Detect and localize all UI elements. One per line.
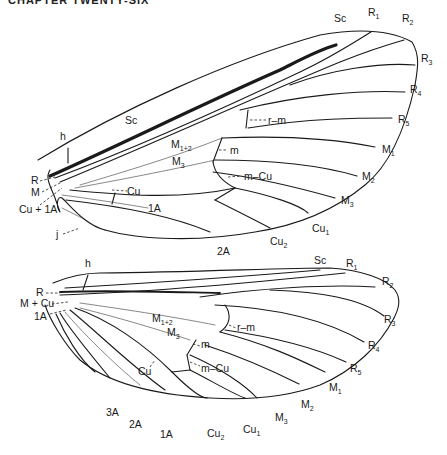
label-r5: R5	[398, 113, 410, 127]
label-r2: R2	[402, 12, 414, 26]
label-h: h	[60, 130, 66, 142]
hw-leader-mcu	[190, 362, 200, 366]
hw-label-cu1: Cu1	[243, 423, 260, 437]
hindwing-vein-1a	[70, 310, 165, 390]
hw-label-m2: M2	[301, 398, 314, 412]
label-r: R	[31, 174, 39, 186]
label-sc-tip: Sc	[334, 12, 346, 24]
hw-label-r1: R1	[346, 257, 358, 271]
hindwing-vein-h	[83, 275, 88, 290]
hw-leader-m	[193, 344, 200, 346]
hindwing-vein-3a-b	[56, 314, 95, 372]
label-m2: M2	[362, 170, 375, 184]
forewing-vein-m1	[222, 137, 375, 147]
hindwing-vein-m12-stem	[80, 303, 215, 325]
label-r1: R1	[368, 6, 380, 20]
hw-label-m3: M3	[167, 326, 180, 340]
forewing-crossvein-rm	[246, 110, 248, 128]
hw-label-1a-base: 1A	[34, 310, 47, 322]
hw-leader-rm	[229, 325, 236, 328]
hw-label-r5: R5	[350, 362, 362, 376]
hindwing-crossvein-rm	[220, 305, 229, 332]
forewing-vein-cu2	[215, 200, 270, 228]
wing-venation-diagram: Sc R1 R2 R3 R4 R5 M1 M2 M3 Cu1 Cu2 2A h …	[0, 0, 447, 455]
forewing-vein-2a	[62, 208, 82, 218]
hindwing	[45, 268, 399, 399]
label-cu: Cu	[127, 185, 141, 197]
hindwing-vein-r5	[225, 330, 346, 362]
forewing-vein-cu-stem	[70, 188, 235, 195]
forewing	[38, 31, 418, 239]
label-m3-margin: M3	[341, 194, 354, 208]
hw-label-h: h	[85, 257, 91, 269]
forewing-outer-margin	[105, 85, 415, 239]
hw-label-cu: Cu	[138, 365, 152, 377]
hw-label-r3: R3	[384, 313, 396, 327]
label-cu2: Cu2	[270, 235, 287, 249]
hw-label-m3-margin: M3	[275, 411, 288, 425]
label-jugum: j	[55, 228, 58, 240]
hw-label-3a: 3A	[106, 406, 119, 418]
hw-label-cu2: Cu2	[207, 427, 224, 441]
leader-cu	[112, 190, 127, 191]
forewing-vein-m12-stem	[80, 138, 222, 185]
label-cu1: Cu1	[312, 222, 329, 236]
label-cu-1a: Cu + 1A	[19, 203, 57, 215]
label-m3: M3	[172, 155, 185, 169]
hindwing-crossvein-m	[187, 340, 196, 355]
hindwing-labels: h Sc R1 R2 R3 R4 R5 M1 M2 M3 Cu1 Cu2 1A …	[20, 254, 396, 441]
forewing-vein-m2	[215, 160, 357, 176]
label-rm: r–m	[268, 114, 286, 126]
hw-label-r2: R2	[382, 275, 394, 289]
hw-label-m: m	[201, 338, 210, 350]
forewing-vein-m3	[213, 172, 335, 198]
forewing-vein-sc	[50, 45, 336, 176]
forewing-labels: Sc R1 R2 R3 R4 R5 M1 M2 M3 Cu1 Cu2 2A h …	[19, 6, 433, 257]
label-m: m	[230, 144, 239, 156]
leader-m-base	[42, 183, 60, 192]
forewing-costa	[38, 31, 418, 160]
forewing-vein-m3-stem	[75, 160, 215, 188]
label-m12: M1+2	[171, 138, 192, 152]
hw-label-rm: r–m	[237, 321, 255, 333]
hw-label-2a: 2A	[129, 418, 142, 430]
label-1a: 1A	[148, 202, 161, 214]
label-r4: R4	[410, 83, 422, 97]
hw-leader-m-cu	[52, 302, 68, 304]
forewing-vein-1a	[66, 200, 210, 232]
hw-label-r4: R4	[368, 339, 380, 353]
forewing-vein-cu1	[235, 188, 308, 213]
label-m-base: M	[31, 186, 40, 198]
label-mcu: m–Cu	[244, 170, 272, 182]
hw-label-1a: 1A	[160, 428, 173, 440]
hindwing-vein-r2	[200, 286, 375, 297]
leader-jugum	[63, 228, 80, 234]
hindwing-vein-r3	[270, 290, 384, 316]
hw-label-sc: Sc	[314, 254, 326, 266]
hindwing-crossvein-mcu	[187, 355, 190, 370]
hw-label-m-cu: M + Cu	[20, 297, 54, 309]
hindwing-crossvein-cu	[172, 370, 190, 372]
hindwing-outer-margin	[45, 305, 394, 399]
label-2a: 2A	[217, 245, 230, 257]
forewing-vein-r1	[55, 32, 371, 178]
hw-leader-1a-base	[50, 310, 66, 314]
hindwing-vein-cu1	[190, 370, 245, 398]
hw-label-m1: M1	[329, 381, 342, 395]
hw-label-m12: M1+2	[152, 312, 173, 326]
hw-label-mcu: m–Cu	[201, 362, 229, 374]
label-sc: Sc	[125, 114, 137, 126]
label-m1: M1	[382, 143, 395, 157]
label-r3: R3	[421, 52, 433, 66]
